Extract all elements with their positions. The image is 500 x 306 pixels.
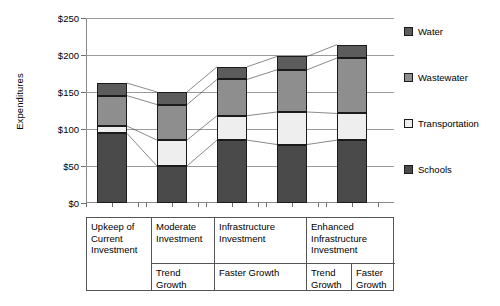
y-axis-tick-label: $100: [58, 124, 79, 135]
stacked-bar[interactable]: [157, 18, 187, 203]
x-axis-tick: [378, 203, 379, 207]
segment-connector-line: [187, 67, 217, 92]
bar-segment-water[interactable]: [277, 56, 307, 69]
bar-segment-wastewater[interactable]: [97, 96, 127, 126]
x-axis-tick: [258, 203, 259, 207]
bar-segment-transportation[interactable]: [337, 113, 367, 140]
y-axis-tick: [81, 55, 86, 56]
x-axis-tick: [292, 203, 293, 207]
scenario-table: Upkeep of Current InvestmentModerate Inv…: [86, 217, 394, 291]
legend-item-transportation[interactable]: Transportation: [404, 118, 479, 129]
x-axis-tick: [86, 203, 87, 207]
segment-connector-line: [187, 116, 217, 140]
segment-connector-line: [247, 112, 277, 116]
bar-segment-transportation[interactable]: [277, 112, 307, 145]
y-axis-tick: [81, 129, 86, 130]
segment-connector-line: [247, 140, 277, 144]
bar-segment-schools[interactable]: [277, 145, 307, 203]
x-axis-tick: [198, 203, 199, 207]
growth-cell-faster-enhanced: Faster Growth: [351, 263, 395, 291]
bar-segment-transportation[interactable]: [97, 126, 127, 133]
bar-segment-water[interactable]: [97, 83, 127, 96]
segment-connector-line: [247, 70, 277, 80]
segment-connector-line: [187, 140, 217, 166]
y-axis-tick: [81, 92, 86, 93]
segment-connector-line: [127, 83, 157, 92]
bar-segment-water[interactable]: [337, 45, 367, 58]
segment-connector-line: [307, 140, 337, 144]
legend-item-schools[interactable]: Schools: [404, 164, 452, 175]
bar-segment-transportation[interactable]: [157, 140, 187, 166]
segment-connector-line: [127, 96, 157, 105]
x-axis-tick: [326, 203, 327, 207]
stacked-bar[interactable]: [337, 18, 367, 203]
legend-swatch-icon: [404, 27, 413, 36]
y-axis-tick: [81, 18, 86, 19]
legend-item-wastewater[interactable]: Wastewater: [404, 72, 468, 83]
scenario-cell-moderate: Moderate Investment: [151, 218, 214, 263]
y-axis-tick-label: $250: [58, 13, 79, 24]
legend-item-label: Water: [418, 26, 443, 37]
x-axis-tick: [232, 203, 233, 207]
x-axis-tick: [352, 203, 353, 207]
bar-segment-wastewater[interactable]: [157, 105, 187, 141]
segment-connector-line: [307, 112, 337, 113]
legend-swatch-icon: [404, 73, 413, 82]
growth-cell-faster-infrastructure: Faster Growth: [214, 263, 306, 291]
bar-segment-wastewater[interactable]: [217, 79, 247, 115]
scenario-cell-enhanced: Enhanced Infrastructure Investment: [306, 218, 395, 263]
bar-segment-wastewater[interactable]: [277, 70, 307, 112]
legend-item-water[interactable]: Water: [404, 26, 443, 37]
x-axis-tick: [112, 203, 113, 207]
y-axis-tick-label: $50: [63, 161, 79, 172]
x-axis-tick: [266, 203, 267, 207]
y-axis-title: Expenditures: [14, 57, 25, 147]
y-axis-tick: [81, 166, 86, 167]
y-axis-tick-label: $0: [68, 198, 79, 209]
bar-segment-water[interactable]: [217, 67, 247, 80]
segment-connector-line: [307, 58, 337, 70]
stacked-bar[interactable]: [97, 18, 127, 203]
chart-legend: WaterWastewaterTransportationSchools: [404, 18, 500, 203]
legend-swatch-icon: [404, 165, 413, 174]
x-axis-tick: [172, 203, 173, 207]
bar-segment-water[interactable]: [157, 92, 187, 105]
chart-figure: Expenditures $0$50$100$150$200$250 Water…: [0, 0, 500, 306]
segment-connector-line: [127, 133, 157, 166]
bar-segment-transportation[interactable]: [217, 116, 247, 140]
legend-item-label: Wastewater: [418, 72, 468, 83]
legend-item-label: Transportation: [418, 118, 479, 129]
y-axis-line: [86, 18, 87, 203]
y-axis-tick-label: $200: [58, 50, 79, 61]
plot-area: $0$50$100$150$200$250: [86, 18, 394, 203]
x-axis-tick: [206, 203, 207, 207]
x-axis-tick: [318, 203, 319, 207]
growth-cell-trend-enhanced: Trend Growth: [306, 263, 351, 291]
bar-segment-schools[interactable]: [217, 140, 247, 203]
scenario-cell-infrastructure: Infrastructure Investment: [214, 218, 306, 263]
bar-segment-wastewater[interactable]: [337, 58, 367, 114]
bar-segment-schools[interactable]: [97, 133, 127, 203]
stacked-bar[interactable]: [277, 18, 307, 203]
growth-cell-trend-moderate: Trend Growth: [151, 263, 214, 291]
y-axis-tick-label: $150: [58, 87, 79, 98]
legend-swatch-icon: [404, 119, 413, 128]
scenario-cell-upkeep: Upkeep of Current Investment: [87, 218, 151, 291]
x-axis-tick: [146, 203, 147, 207]
legend-item-label: Schools: [418, 164, 452, 175]
bar-segment-schools[interactable]: [337, 140, 367, 203]
stacked-bar[interactable]: [217, 18, 247, 203]
x-axis-tick: [138, 203, 139, 207]
bar-segment-schools[interactable]: [157, 166, 187, 203]
segment-connector-line: [247, 56, 277, 66]
